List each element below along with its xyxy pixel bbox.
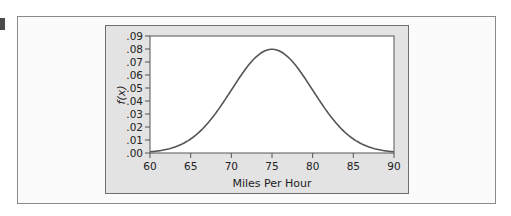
y-tick-label: .00 <box>126 147 143 159</box>
y-tick-label: .07 <box>126 56 143 68</box>
x-tick-label: 70 <box>225 160 238 172</box>
x-axis: 60657075808590 <box>143 153 400 172</box>
y-tick-label: .06 <box>126 69 143 81</box>
x-tick-label: 65 <box>184 160 197 172</box>
y-tick-label: .04 <box>126 95 143 107</box>
x-tick-label: 60 <box>143 160 156 172</box>
plot-area <box>150 36 394 153</box>
y-tick-label: .09 <box>126 30 143 42</box>
y-tick-label: .03 <box>126 108 143 120</box>
x-tick-label: 85 <box>347 160 360 172</box>
y-tick-label: .01 <box>126 134 143 146</box>
y-tick-label: .08 <box>126 43 143 55</box>
x-tick-label: 80 <box>306 160 319 172</box>
x-tick-label: 90 <box>387 160 400 172</box>
x-tick-label: 75 <box>265 160 278 172</box>
y-axis-title: f(x) <box>115 86 128 105</box>
y-tick-label: .05 <box>126 82 143 94</box>
chart: .00.01.02.03.04.05.06.07.08.09 606570758… <box>0 0 511 216</box>
x-axis-title: Miles Per Hour <box>232 177 312 190</box>
y-axis: .00.01.02.03.04.05.06.07.08.09 <box>126 30 150 159</box>
y-tick-label: .02 <box>126 121 143 133</box>
